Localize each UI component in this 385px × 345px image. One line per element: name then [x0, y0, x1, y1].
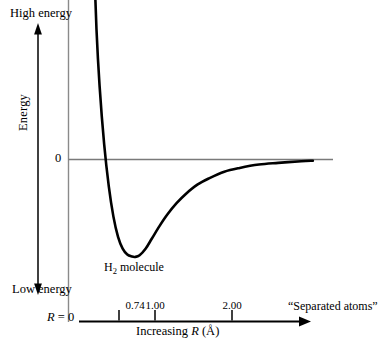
x-axis-title: Increasing R (Å)	[136, 325, 219, 338]
x-axis-title-prefix: Increasing	[136, 324, 191, 338]
potential-energy-curve-line	[87, 0, 313, 257]
potential-energy-figure: High energy Low energy Energy 0 H2 molec…	[0, 0, 385, 345]
energy-axis-label: Energy	[17, 94, 30, 131]
r-symbol-italic: R	[47, 310, 55, 324]
r-origin-value: = 0	[55, 310, 75, 324]
h2-molecule-label: H2 molecule	[104, 261, 164, 276]
x-axis-tick-label: 2.00	[222, 299, 241, 311]
high-energy-label: High energy	[10, 7, 72, 20]
x-axis-tick-label: 1.00	[145, 299, 164, 311]
x-axis-title-symbol: R	[191, 324, 199, 338]
r-origin-label: R = 0	[47, 311, 74, 324]
h2-molecule-element: H	[104, 260, 113, 274]
zero-energy-tick-label: 0	[55, 152, 61, 165]
separated-atoms-label: “Separated atoms”	[288, 300, 378, 312]
x-axis-tick-label: 0.74	[125, 299, 144, 311]
energy-axis-arrow	[34, 23, 42, 295]
h2-molecule-word: molecule	[117, 260, 164, 274]
x-axis-title-units: (Å)	[199, 324, 219, 338]
low-energy-label: Low energy	[12, 283, 72, 296]
x-axis-ticks	[119, 310, 232, 321]
